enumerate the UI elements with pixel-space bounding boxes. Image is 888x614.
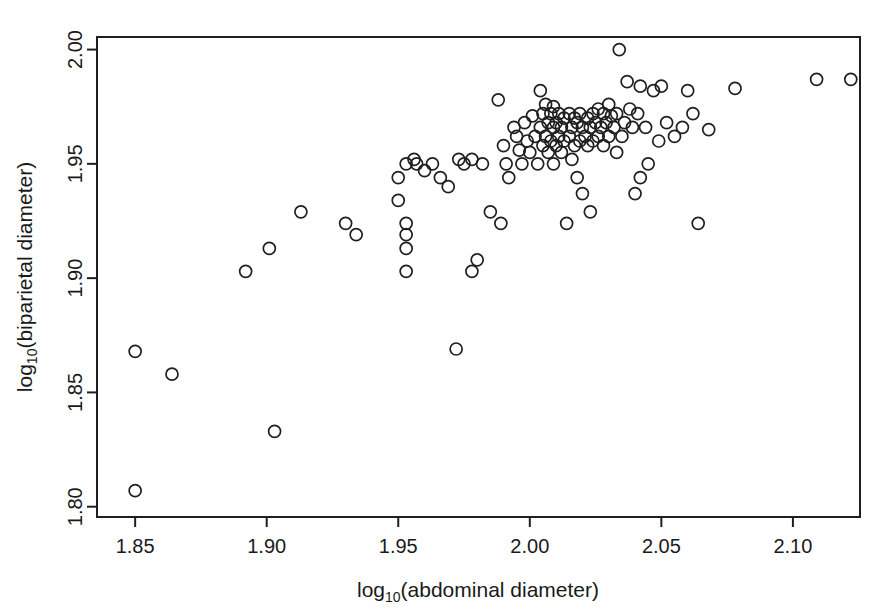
- data-point: [519, 117, 531, 129]
- data-point: [634, 80, 646, 92]
- data-point: [129, 345, 141, 357]
- data-point: [497, 140, 509, 152]
- x-tick-label: 2.10: [773, 535, 812, 557]
- data-point: [811, 73, 823, 85]
- data-point: [729, 82, 741, 94]
- data-point: [687, 108, 699, 120]
- data-point: [692, 217, 704, 229]
- scatter-plot-figure: 1.851.901.952.002.052.10 1.801.851.901.9…: [0, 0, 888, 614]
- data-point: [400, 217, 412, 229]
- data-point: [484, 206, 496, 218]
- x-axis-tick-labels: 1.851.901.952.002.052.10: [116, 535, 813, 557]
- data-point: [653, 135, 665, 147]
- x-tick-label: 1.95: [379, 535, 418, 557]
- data-point: [340, 217, 352, 229]
- plot-border: [97, 37, 860, 517]
- data-point: [547, 158, 559, 170]
- data-point: [640, 121, 652, 133]
- data-point: [532, 158, 544, 170]
- data-point: [571, 172, 583, 184]
- data-point: [597, 140, 609, 152]
- data-point: [426, 158, 438, 170]
- data-point: [240, 265, 252, 277]
- data-point: [613, 44, 625, 56]
- data-point: [516, 158, 528, 170]
- data-point: [629, 188, 641, 200]
- data-point: [419, 165, 431, 177]
- y-tick-label: 1.80: [64, 487, 86, 526]
- data-point: [561, 217, 573, 229]
- data-point: [442, 181, 454, 193]
- data-point: [471, 254, 483, 266]
- data-point: [392, 172, 404, 184]
- x-axis-ticks: [135, 517, 793, 527]
- data-point: [263, 242, 275, 254]
- data-point: [703, 124, 715, 136]
- x-tick-label: 1.85: [116, 535, 155, 557]
- x-tick-label: 1.90: [247, 535, 286, 557]
- data-point: [166, 368, 178, 380]
- data-point: [400, 229, 412, 241]
- data-point: [682, 85, 694, 97]
- data-point: [845, 73, 857, 85]
- x-tick-label: 2.00: [510, 535, 549, 557]
- data-point: [492, 94, 504, 106]
- data-point: [616, 130, 628, 142]
- data-point: [500, 158, 512, 170]
- y-tick-label: 1.90: [64, 259, 86, 298]
- data-point: [584, 206, 596, 218]
- data-point: [534, 85, 546, 97]
- data-point: [566, 153, 578, 165]
- data-point: [503, 172, 515, 184]
- y-axis-ticks: [87, 50, 97, 507]
- data-point: [400, 242, 412, 254]
- x-tick-label: 2.05: [642, 535, 681, 557]
- data-point: [295, 206, 307, 218]
- data-point: [634, 172, 646, 184]
- y-tick-label: 1.85: [64, 373, 86, 412]
- y-tick-label: 1.95: [64, 144, 86, 183]
- data-point: [661, 117, 673, 129]
- data-point: [576, 188, 588, 200]
- y-tick-label: 2.00: [64, 30, 86, 69]
- data-point: [392, 194, 404, 206]
- data-point: [400, 265, 412, 277]
- data-point: [676, 121, 688, 133]
- data-point: [450, 343, 462, 355]
- data-point: [642, 158, 654, 170]
- y-axis-title: log10(biparietal diameter): [13, 162, 40, 392]
- data-point: [466, 265, 478, 277]
- plot-frame: [97, 37, 860, 517]
- data-point: [269, 425, 281, 437]
- y-axis-tick-labels: 1.801.851.901.952.00: [64, 30, 86, 526]
- data-point: [495, 217, 507, 229]
- data-point: [621, 76, 633, 88]
- plot-canvas: 1.851.901.952.002.052.10 1.801.851.901.9…: [0, 0, 888, 614]
- x-axis-title: log10(abdominal diameter): [357, 578, 599, 605]
- data-point: [350, 229, 362, 241]
- data-points: [129, 44, 857, 497]
- data-point: [476, 158, 488, 170]
- data-point: [611, 146, 623, 158]
- data-point: [129, 485, 141, 497]
